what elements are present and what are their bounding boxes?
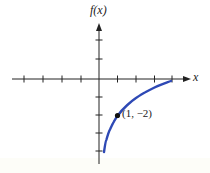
point-marker [115,113,120,118]
y-axis-arrow-icon [96,23,102,31]
x-axis-label: x [193,70,198,85]
point-label: (1, −2) [122,107,152,119]
graph [0,0,210,173]
y-axis-label: f(x) [90,3,107,18]
x-axis-arrow-icon [183,76,191,82]
